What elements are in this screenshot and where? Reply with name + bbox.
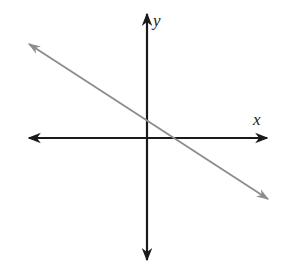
coordinate-plane (0, 0, 283, 270)
y-axis-label: y (153, 12, 161, 29)
x-axis-label: x (253, 111, 261, 128)
graphed-line (29, 44, 268, 199)
